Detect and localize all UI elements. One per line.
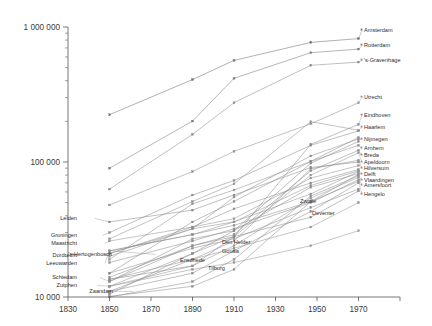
data-point-marker: [192, 209, 194, 211]
data-point-marker: [310, 52, 312, 54]
data-point-marker: [310, 177, 312, 179]
data-point-marker: [192, 281, 194, 283]
data-point-marker: [310, 161, 312, 163]
data-point-marker: [358, 165, 360, 167]
series-label: Haarlem: [364, 124, 385, 130]
data-point-marker: [233, 189, 235, 191]
data-point-marker: [233, 60, 235, 62]
label-leader-line: [359, 30, 363, 38]
series-labels-group: AmsterdamRotterdam's-GravenhageUtrechtEi…: [46, 27, 400, 294]
data-point-marker: [358, 152, 360, 154]
population-log-chart: 1830185018701890191019301950197010 00010…: [0, 0, 432, 326]
data-point-marker: [192, 201, 194, 203]
data-point-marker: [310, 186, 312, 188]
data-point-marker: [192, 245, 194, 247]
data-point-marker: [192, 134, 194, 136]
series-label: Enschede: [180, 257, 205, 263]
chart-canvas: 1830185018701890191019301950197010 00010…: [0, 0, 432, 326]
x-tick-label: 1910: [225, 305, 244, 314]
series-label: Zutphen: [56, 282, 77, 288]
data-point-marker: [310, 193, 312, 195]
data-point-marker: [358, 130, 360, 132]
data-point-marker: [233, 236, 235, 238]
label-marker: [361, 59, 363, 61]
label-leader-line: [359, 115, 363, 124]
data-point-marker: [233, 228, 235, 230]
data-point-marker: [192, 203, 194, 205]
data-point-marker: [109, 238, 111, 240]
series-label: Amsterdam: [364, 27, 393, 33]
data-point-marker: [358, 190, 360, 192]
data-point-marker: [310, 216, 312, 218]
label-marker: [361, 179, 363, 181]
label-leader-line: [359, 45, 363, 49]
data-point-marker: [358, 173, 360, 175]
data-point-marker: [358, 230, 360, 232]
series-label: Eindhoven: [364, 112, 390, 118]
data-point-marker: [233, 194, 235, 196]
series-label: Tilburg: [208, 265, 225, 271]
series-label: Zwolle: [300, 198, 316, 204]
data-point-marker: [109, 259, 111, 261]
data-point-marker: [109, 262, 111, 264]
data-point-marker: [310, 174, 312, 176]
data-point-marker: [310, 121, 312, 123]
data-point-marker: [192, 272, 194, 274]
data-point-marker: [358, 137, 360, 139]
data-point-marker: [233, 269, 235, 271]
series-label: Amersfoort: [364, 182, 392, 188]
label-marker: [361, 154, 363, 156]
series-label: Breda: [364, 152, 380, 158]
y-tick-label: 1 000 000: [24, 23, 61, 32]
data-point-marker: [192, 285, 194, 287]
label-leader-line: [359, 97, 363, 102]
data-point-marker: [358, 188, 360, 190]
data-point-marker: [310, 170, 312, 172]
data-point-marker: [358, 202, 360, 204]
data-point-marker: [109, 204, 111, 206]
data-point-marker: [310, 64, 312, 66]
data-point-marker: [192, 238, 194, 240]
data-point-marker: [233, 180, 235, 182]
label-marker: [361, 173, 363, 175]
data-point-marker: [192, 120, 194, 122]
data-point-marker: [192, 194, 194, 196]
series-label: Rotterdam: [364, 42, 390, 48]
data-point-marker: [310, 155, 312, 157]
data-point-marker: [310, 226, 312, 228]
data-point-marker: [109, 276, 111, 278]
label-marker: [361, 193, 363, 195]
data-point-marker: [233, 245, 235, 247]
series-line: [110, 131, 359, 233]
label-marker: [361, 147, 363, 149]
data-point-marker: [310, 123, 312, 125]
data-point-marker: [233, 150, 235, 152]
data-point-marker: [109, 188, 111, 190]
series-label: Maastricht: [51, 240, 77, 246]
data-point-marker: [192, 234, 194, 236]
series-label: Hengelo: [364, 191, 385, 197]
data-point-marker: [192, 240, 194, 242]
x-tick-label: 1870: [142, 305, 161, 314]
data-point-marker: [192, 221, 194, 223]
label-leader-line: [97, 285, 109, 286]
series-label: Utrecht: [364, 94, 382, 100]
label-marker: [361, 114, 363, 116]
data-point-marker: [310, 167, 312, 169]
data-point-marker: [233, 262, 235, 264]
x-tick-label: 1970: [349, 305, 368, 314]
label-marker: [361, 126, 363, 128]
label-marker: [361, 161, 363, 163]
series-label: Arnhem: [364, 145, 384, 151]
series-label: Groningen: [51, 232, 77, 238]
x-tick-label: 1930: [266, 305, 285, 314]
data-point-marker: [233, 201, 235, 203]
data-point-marker: [192, 171, 194, 173]
data-point-marker: [310, 195, 312, 197]
data-point-marker: [233, 230, 235, 232]
data-point-marker: [192, 228, 194, 230]
label-marker: [361, 184, 363, 186]
label-leader-line: [105, 241, 110, 243]
data-point-marker: [233, 224, 235, 226]
series-label: Deventer: [312, 210, 335, 216]
